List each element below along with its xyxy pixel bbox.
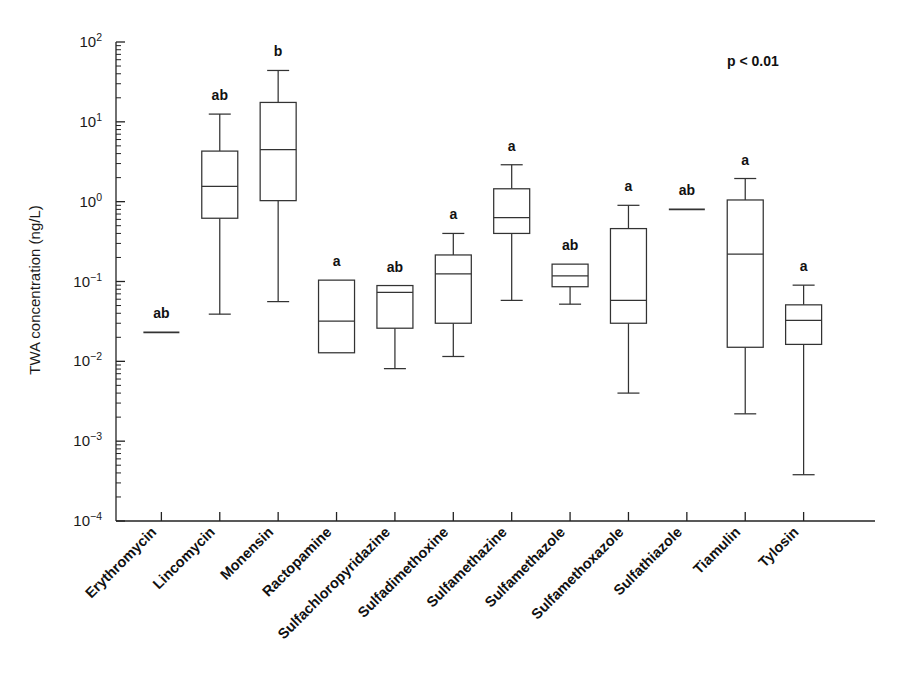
- box-iqr: [435, 255, 471, 323]
- category-label: Tiamulin: [690, 524, 743, 577]
- chart-figure: 10−410−310−210−1100101102 TWA concentrat…: [0, 0, 921, 673]
- group-letter: a: [741, 152, 749, 168]
- y-tick-label: 101: [79, 111, 102, 130]
- group-letter: a: [625, 178, 633, 194]
- box-iqr: [260, 102, 296, 200]
- group-letter: ab: [562, 237, 578, 253]
- group-letter: a: [449, 206, 457, 222]
- boxplot-item: [435, 233, 471, 356]
- group-letter: a: [800, 258, 808, 274]
- boxplot-item: [260, 70, 296, 301]
- category-label: Erythromycin: [82, 524, 159, 601]
- group-letter: ab: [153, 305, 169, 321]
- box-iqr: [610, 229, 646, 324]
- boxplot-item: [786, 285, 822, 475]
- y-tick-label: 102: [79, 31, 102, 50]
- boxplot-item: [552, 264, 588, 304]
- group-letter: b: [274, 43, 283, 59]
- x-axis-ticks: [161, 512, 803, 521]
- category-label: Tylosin: [755, 524, 801, 570]
- group-letter-labels: ababbaabaaabaabaa: [153, 43, 808, 321]
- category-label: Monensin: [217, 524, 276, 583]
- boxplot-item: [610, 205, 646, 393]
- box-iqr: [319, 280, 355, 353]
- box-iqr: [494, 189, 530, 234]
- boxplot-item: [202, 114, 238, 314]
- group-letter: a: [333, 253, 341, 269]
- group-letter: ab: [387, 259, 403, 275]
- box-iqr: [202, 151, 238, 218]
- group-letter: ab: [212, 87, 228, 103]
- group-letter: ab: [679, 182, 695, 198]
- group-letter: a: [508, 138, 516, 154]
- x-axis-category-labels: ErythromycinLincomycinMonensinRactopamin…: [82, 524, 802, 642]
- boxplot-chart: 10−410−310−210−1100101102 TWA concentrat…: [0, 0, 921, 673]
- y-tick-label: 10−1: [73, 271, 102, 290]
- boxplot-item: [494, 165, 530, 301]
- boxplot-item: [727, 179, 763, 414]
- y-axis-tick-labels: 10−410−310−210−1100101102: [73, 31, 102, 529]
- boxplot-item: [319, 280, 355, 353]
- category-label: Lincomycin: [150, 524, 218, 592]
- y-tick-label: 100: [79, 191, 102, 210]
- box-iqr: [727, 200, 763, 347]
- box-iqr: [786, 305, 822, 345]
- y-axis-ticks: [116, 42, 125, 521]
- y-axis-title: TWA concentration (ng/L): [26, 205, 43, 375]
- category-label: Sulfachloropyridazine: [275, 524, 393, 642]
- boxplot-item: [377, 286, 413, 369]
- y-tick-label: 10−2: [73, 350, 102, 369]
- p-value-annotation: p < 0.01: [727, 53, 779, 69]
- y-tick-label: 10−4: [73, 510, 102, 529]
- y-tick-label: 10−3: [73, 430, 102, 449]
- boxplot-series: [143, 70, 821, 474]
